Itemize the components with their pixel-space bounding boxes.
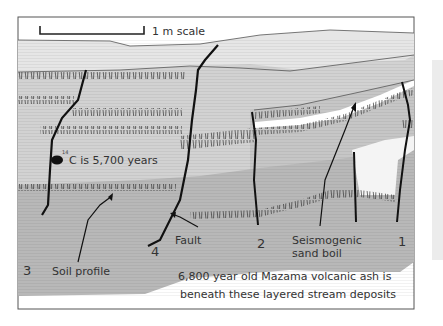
caption-line-1: 6,800 year old Mazama volcanic ash is [178, 270, 392, 283]
c14-label: C is 5,700 years [69, 154, 158, 167]
sand-boil-label-line1: Seismogenic [292, 234, 362, 247]
fault-number-3: 3 [23, 263, 31, 278]
soil-hatch [18, 184, 176, 191]
soil-profile-label: Soil profile [52, 265, 110, 278]
fault-number-2: 2 [257, 236, 265, 251]
soil-hatch [72, 108, 182, 116]
sample-dot [51, 156, 63, 165]
soil-hatch [18, 96, 74, 104]
caption-line-2: beneath these layered stream deposits [180, 288, 396, 301]
c14-superscript: 14 [62, 149, 68, 155]
soil-hatch [18, 72, 186, 80]
soil-hatch [40, 126, 182, 134]
sand-boil-label-line2: sand boil [292, 247, 342, 260]
fault-number-1: 1 [398, 234, 406, 249]
fault-number-4: 4 [151, 244, 159, 259]
scale-label: 1 m scale [152, 25, 205, 38]
fault-label: Fault [175, 234, 202, 247]
fault-cross-section-diagram: 1 m scale 14 C is 5,700 years Fault 4 2 … [0, 0, 443, 326]
